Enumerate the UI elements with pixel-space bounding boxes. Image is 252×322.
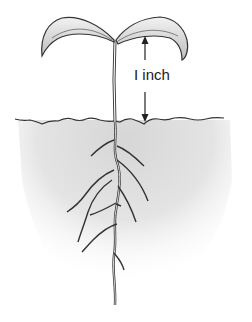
left-cotyledon-leaf [42, 17, 114, 56]
seedling-illustration [0, 0, 252, 322]
right-cotyledon-leaf [116, 17, 188, 60]
measurement-label: I inch [134, 66, 170, 83]
